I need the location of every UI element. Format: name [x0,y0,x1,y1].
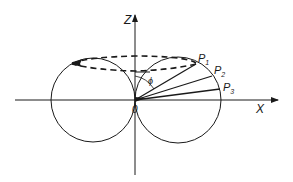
vector-p3 [135,89,220,100]
dipole-radiation-diagram: Z X 0 ϕ P1 P2 P3 [0,0,293,182]
p1-label: P1 [198,52,209,66]
x-axis-label: X [255,102,265,116]
origin-label: 0 [132,104,138,115]
p2-label: P2 [214,64,225,78]
dashed-rotation-path-bottom [72,64,196,71]
p3-label: P3 [223,81,234,95]
z-axis-label: Z [123,13,132,27]
vector-p2 [135,76,212,100]
phi-label: ϕ [148,76,153,86]
